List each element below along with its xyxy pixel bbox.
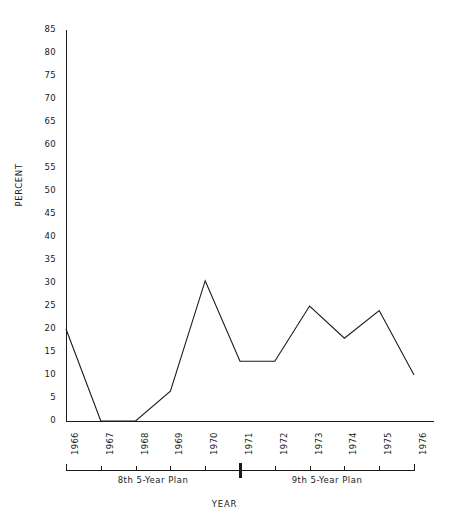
bracket-year-tick [310, 466, 311, 471]
x-tick-label: 1976 [418, 432, 428, 455]
bracket-end-cap [414, 464, 415, 471]
x-tick-label: 1967 [105, 432, 115, 455]
bracket-year-tick [136, 466, 137, 471]
x-tick-label: 1968 [140, 432, 150, 455]
plan-label-8th: 8th 5-Year Plan [83, 475, 223, 485]
bracket-year-tick [101, 466, 102, 471]
x-axis-title: YEAR [0, 499, 449, 509]
x-tick-label: 1975 [383, 432, 393, 455]
plan-label-9th: 9th 5-Year Plan [257, 475, 397, 485]
x-tick-label: 1971 [244, 432, 254, 455]
x-tick-label: 1969 [174, 432, 184, 455]
x-tick-label: 1972 [279, 432, 289, 455]
bracket-year-tick [275, 466, 276, 471]
bracket-year-tick [344, 466, 345, 471]
bracket-year-tick [205, 466, 206, 471]
bracket-year-tick [379, 466, 380, 471]
x-tick-label: 1973 [314, 432, 324, 455]
data-series-line [66, 281, 414, 421]
bracket-year-tick [170, 466, 171, 471]
x-tick-label: 1974 [348, 432, 358, 455]
plan-divider-1971 [239, 463, 242, 478]
x-tick-label: 1970 [209, 432, 219, 455]
plot-area [0, 0, 449, 522]
line-chart: PERCENT 85807570656055504540353025201510… [0, 0, 449, 522]
bracket-end-cap [66, 464, 67, 471]
x-tick-label: 1966 [70, 432, 80, 455]
